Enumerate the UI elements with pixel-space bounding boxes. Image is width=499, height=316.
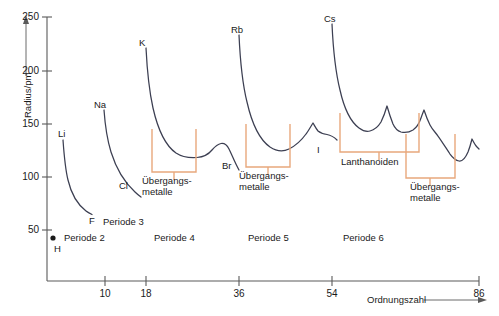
bracket-label-uebergangsmetalle-5: Übergangs- metalle <box>239 171 289 192</box>
bracket-label-uebergangsmetalle-4: Übergangs- metalle <box>142 176 192 197</box>
period-label-4: Periode 4 <box>154 232 195 243</box>
x-tick-label-18: 18 <box>133 288 159 299</box>
bracket-uebergangsmetalle-periode-5 <box>246 124 290 175</box>
element-label-cs: Cs <box>324 13 336 24</box>
x-tick-label-86: 86 <box>466 288 492 299</box>
period-label-6: Periode 6 <box>343 232 384 243</box>
y-tick-label-50: 50 <box>8 224 39 235</box>
period-label-3: Periode 3 <box>103 216 144 227</box>
element-label-na: Na <box>94 99 106 110</box>
x-tick-label-10: 10 <box>92 288 118 299</box>
y-tick-label-200: 200 <box>8 65 39 76</box>
y-tick-label-250: 250 <box>8 11 39 22</box>
curve-periode-2 <box>63 140 92 215</box>
x-tick-label-54: 54 <box>319 288 345 299</box>
bracket-uebergangsmetalle-periode-4 <box>152 129 196 180</box>
y-tick-label-150: 150 <box>8 118 39 129</box>
element-label-cl: Cl <box>119 180 128 191</box>
element-label-rb: Rb <box>231 24 243 35</box>
element-label-br: Br <box>222 160 232 171</box>
curve-periode-4 <box>146 48 239 170</box>
bracket-uebergangsmetalle-periode-6 <box>406 134 455 186</box>
bracket-label-uebergangsmetalle-6: Übergangs- metalle <box>410 182 460 203</box>
period-label-5: Periode 5 <box>248 232 289 243</box>
chart-canvas <box>0 0 499 316</box>
element-label-f: F <box>89 215 95 226</box>
element-label-li: Li <box>58 128 65 139</box>
y-axis-title: Radius/pm <box>22 73 33 118</box>
data-point-hydrogen <box>50 235 55 240</box>
element-label-h: H <box>54 243 61 254</box>
element-label-k: K <box>139 37 145 48</box>
element-label-i: I <box>317 144 320 155</box>
curve-periode-5 <box>239 35 337 151</box>
period-label-2: Periode 2 <box>64 232 105 243</box>
bracket-label-lanthanoiden: Lanthanoiden <box>341 157 399 168</box>
x-axis-title: Ordnungszahl <box>367 294 426 305</box>
atomic-radius-chart: Radius/pm Ordnungszahl 250 200 150 100 5… <box>0 0 499 316</box>
y-tick-label-100: 100 <box>8 171 39 182</box>
x-tick-label-36: 36 <box>226 288 252 299</box>
